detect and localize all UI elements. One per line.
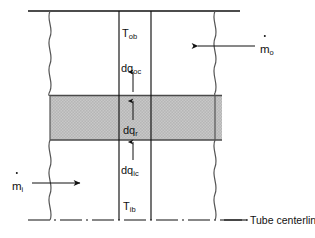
m-inner-subscript: i [22, 185, 24, 194]
dq-oc-base: dq [121, 62, 133, 74]
t-ib-base: T [123, 200, 130, 212]
outer-bulk-temperature-label: Tob [122, 24, 137, 40]
dq-r-base: dq [123, 124, 135, 136]
m-outer-base: m [260, 43, 270, 55]
inner-bulk-temperature-label: Tib [123, 197, 136, 213]
t-ib-subscript: ib [130, 205, 136, 214]
inner-convection-heat-label: dqic [121, 161, 139, 177]
t-ob-base: T [122, 27, 129, 39]
tube-centerline-caption: Tube centerline [250, 215, 315, 226]
outer-mass-flow-label: mo [260, 40, 274, 56]
dq-ic-subscript: ic [133, 169, 139, 178]
m-outer-subscript: o [270, 48, 274, 57]
t-ob-subscript: ob [129, 32, 138, 41]
inner-mass-flow-label: mi [12, 177, 23, 193]
outer-convection-heat-label: dqoc [121, 59, 142, 75]
radial-conduction-heat-label: dqr [123, 121, 138, 137]
tube-energy-balance-figure: Tob dqoc dqr dqic Tib mo mi Tube centerl… [0, 0, 315, 238]
dq-oc-subscript: oc [133, 67, 141, 76]
figure-vector-canvas [0, 0, 315, 238]
dq-r-subscript: r [135, 129, 138, 138]
dq-ic-base: dq [121, 164, 133, 176]
m-inner-base: m [12, 180, 22, 192]
